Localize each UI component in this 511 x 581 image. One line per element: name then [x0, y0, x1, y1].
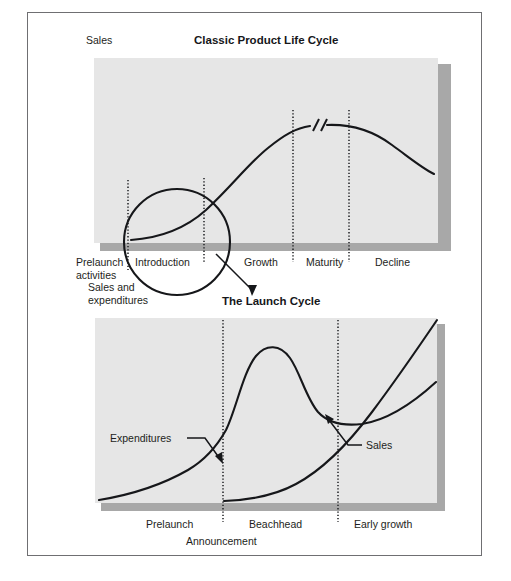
chart2-stage-label-early-growth: Early growth — [354, 518, 413, 530]
chart1-title: Classic Product Life Cycle — [194, 34, 338, 46]
chart2-title: The Launch Cycle — [222, 295, 320, 307]
chart2-stage-label-prelaunch: Prelaunch — [146, 518, 193, 530]
chart1-stage-label-prelaunch: Prelaunch — [76, 256, 123, 268]
chart-the-launch-cycle: The Launch Cycle Expenditures Sales Prel… — [95, 295, 445, 547]
chart1-callout-line2: expenditures — [88, 294, 148, 306]
chart2-annotation-expenditures: Expenditures — [110, 432, 171, 444]
chart1-stage-label-maturity: Maturity — [306, 256, 344, 268]
chart1-stage-label-prelaunch-line2: activities — [76, 269, 116, 281]
chart1-stage-label-decline: Decline — [375, 256, 410, 268]
chart2-annotation-sales: Sales — [366, 439, 392, 451]
chart1-stage-label-growth: Growth — [244, 256, 278, 268]
chart2-stage-label-beachhead: Beachhead — [249, 518, 302, 530]
chart2-stage-label-announcement: Announcement — [186, 535, 257, 547]
chart1-y-axis-label: Sales — [86, 34, 112, 46]
figure-canvas: Sales Classic Product Life Cycle Prelaun… — [0, 0, 511, 581]
chart-classic-product-life-cycle: Sales Classic Product Life Cycle Prelaun… — [76, 34, 451, 306]
chart1-stage-label-introduction: Introduction — [135, 256, 190, 268]
chart1-callout-line1: Sales and — [88, 281, 135, 293]
chart2-plot-area — [95, 318, 437, 503]
